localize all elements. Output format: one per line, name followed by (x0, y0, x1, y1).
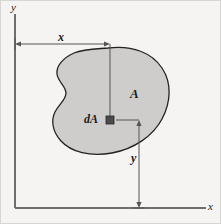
x-dimension-arrow-right (104, 41, 110, 46)
diagram-svg (0, 0, 221, 224)
x-axis-label: x (208, 201, 213, 212)
differential-element-label: dA (84, 113, 98, 125)
area-region-shape (53, 47, 169, 154)
area-label: A (130, 87, 139, 100)
y-axis-label: y (11, 2, 16, 13)
figure-canvas: y x x y A dA (0, 0, 221, 224)
y-dimension-label: y (131, 152, 136, 164)
differential-area-element (106, 116, 114, 124)
x-dimension-label: x (58, 31, 64, 43)
